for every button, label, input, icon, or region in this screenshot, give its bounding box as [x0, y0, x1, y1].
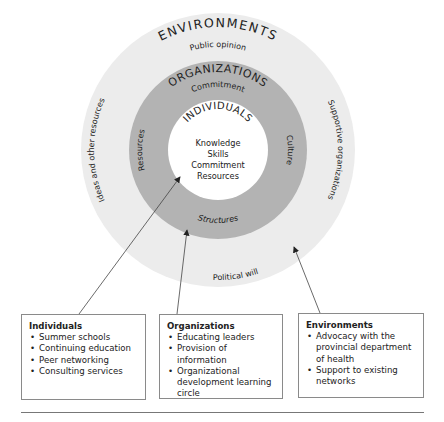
- list-item: Provision of information: [167, 343, 276, 365]
- list-item: Advocacy with the provincial department …: [306, 331, 417, 365]
- list-item: Continuing education: [29, 343, 139, 354]
- environments-box: Environments Advocacy with the provincia…: [298, 313, 424, 398]
- environments-box-title: Environments: [306, 320, 417, 331]
- list-item: Peer networking: [29, 355, 139, 366]
- list-item: Organizational development learning circ…: [167, 366, 276, 400]
- individuals-box-list: Summer schools Continuing education Peer…: [29, 332, 139, 377]
- organizations-box: Organizations Educating leaders Provisio…: [159, 314, 283, 399]
- list-item: Consulting services: [29, 366, 139, 377]
- list-item: Educating leaders: [167, 332, 276, 343]
- individuals-item: Knowledge: [195, 138, 240, 148]
- organizations-box-list: Educating leaders Provision of informati…: [167, 332, 276, 399]
- individuals-box-title: Individuals: [29, 321, 139, 332]
- individuals-item: Resources: [197, 171, 239, 181]
- individuals-box: Individuals Summer schools Continuing ed…: [21, 314, 146, 400]
- bottom-divider: [21, 412, 424, 413]
- individuals-items: Knowledge Skills Commitment Resources: [191, 138, 245, 181]
- organizations-right-label: Culture: [285, 134, 295, 165]
- environments-box-list: Advocacy with the provincial department …: [306, 331, 417, 387]
- organizations-box-title: Organizations: [167, 321, 276, 332]
- list-item: Summer schools: [29, 332, 139, 343]
- individuals-item: Commitment: [191, 160, 245, 170]
- list-item: Support to existing networks: [306, 365, 417, 387]
- arrow-environments: [294, 247, 320, 313]
- individuals-item: Skills: [207, 149, 228, 159]
